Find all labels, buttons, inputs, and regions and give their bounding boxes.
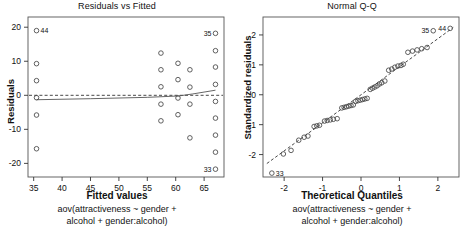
svg-text:35: 35 — [204, 30, 212, 37]
y-axis-label-left: Residuals — [5, 70, 16, 134]
svg-text:44: 44 — [41, 27, 49, 34]
svg-text:0: 0 — [16, 90, 21, 100]
svg-text:44: 44 — [438, 25, 446, 32]
svg-text:35: 35 — [421, 27, 429, 34]
caption-right-line1: aov(attractiveness ~ gender + — [235, 204, 469, 216]
y-axis-label-right: Standardized residuals — [242, 64, 253, 140]
svg-text:33: 33 — [204, 166, 212, 173]
x-axis-label-left: Fitted values — [0, 190, 234, 201]
x-axis-label-right: Theoretical Quantiles — [235, 190, 469, 201]
panel-normal-qq: Normal Q-Q -2-1012-2-1012333544 Standard… — [235, 0, 469, 243]
svg-text:20: 20 — [12, 22, 22, 32]
svg-text:10: 10 — [12, 56, 22, 66]
panel-residuals-vs-fitted: Residuals vs Fitted 35404550556065-20-10… — [0, 0, 234, 243]
svg-text:-20: -20 — [9, 158, 22, 168]
caption-left-line2: alcohol + gender:alcohol) — [0, 216, 234, 228]
caption-left-line1: aov(attractiveness ~ gender + — [0, 204, 234, 216]
diagnostic-figure: Residuals vs Fitted 35404550556065-20-10… — [0, 0, 469, 243]
svg-text:-2: -2 — [248, 150, 256, 160]
svg-text:33: 33 — [276, 170, 284, 177]
caption-right-line2: alcohol + gender:alcohol) — [235, 216, 469, 228]
